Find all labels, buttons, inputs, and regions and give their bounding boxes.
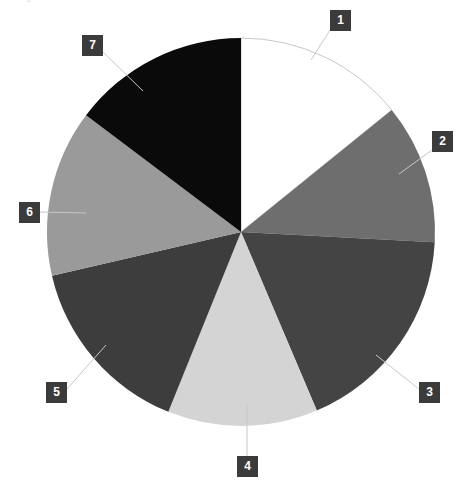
leader-line-3 bbox=[376, 355, 419, 389]
pie-chart-canvas bbox=[0, 0, 464, 492]
callout-label-6[interactable]: 6 bbox=[19, 202, 40, 223]
pie-chart-figure: g ....... ....... ........ 1234567 bbox=[0, 0, 464, 492]
callout-label-1[interactable]: 1 bbox=[330, 10, 351, 31]
leader-line-5 bbox=[67, 345, 106, 389]
callout-label-7[interactable]: 7 bbox=[82, 35, 103, 56]
pie-slice-group bbox=[47, 38, 435, 426]
callout-label-4[interactable]: 4 bbox=[237, 456, 258, 477]
callout-label-2[interactable]: 2 bbox=[432, 131, 453, 152]
callout-label-3[interactable]: 3 bbox=[419, 382, 440, 403]
callout-label-5[interactable]: 5 bbox=[46, 382, 67, 403]
